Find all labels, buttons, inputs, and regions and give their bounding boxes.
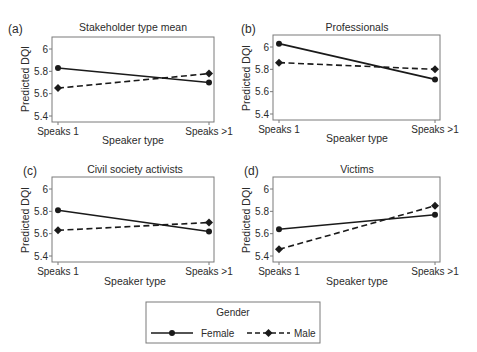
- panel-c: (c) Civil society activists Predicted DQ…: [19, 163, 233, 287]
- panel-d: (d) Victims Predicted DQI Speaker type 5…: [240, 163, 459, 287]
- panel-title: Stakeholder type mean: [79, 21, 187, 33]
- plot-area: 5.45.65.86Speaks 1Speaks >1: [255, 35, 459, 135]
- x-tick-label: Speaks 1: [37, 126, 79, 137]
- x-tick-label: Speaks >1: [411, 124, 459, 135]
- panel-label: (b): [241, 22, 256, 36]
- y-axis-title: Predicted DQI: [19, 46, 31, 112]
- y-tick-label: 5.4: [255, 109, 269, 120]
- plot-area: 5.45.65.86Speaks 1Speaks >1: [255, 177, 459, 277]
- panel-title: Civil society activists: [87, 163, 183, 175]
- panel-label: (a): [8, 22, 23, 36]
- circle-marker-icon: [55, 65, 61, 71]
- x-axis-title: Speaker type: [104, 275, 166, 287]
- circle-marker-icon: [276, 226, 282, 232]
- y-tick-label: 5.8: [34, 206, 48, 217]
- y-tick-label: 5.4: [255, 251, 269, 262]
- panel-title: Victims: [340, 163, 374, 175]
- diamond-marker-icon: [54, 226, 62, 234]
- figure: (a) Stakeholder type mean Predicted DQI …: [0, 0, 477, 352]
- y-tick-label: 6: [263, 184, 269, 195]
- legend: Gender Female Male: [146, 302, 320, 343]
- y-tick-label: 5.4: [34, 251, 48, 262]
- y-tick-label: 5.8: [34, 66, 48, 77]
- circle-marker-icon: [206, 228, 212, 234]
- diamond-marker-icon: [431, 65, 439, 73]
- series-line-female: [279, 44, 435, 80]
- y-tick-label: 5.6: [34, 228, 48, 239]
- plot-area: 5.45.65.86Speaks 1Speaks >1: [34, 177, 233, 277]
- legend-label-male: Male: [294, 328, 316, 339]
- y-tick-label: 5.8: [255, 64, 269, 75]
- circle-marker-icon: [432, 76, 438, 82]
- y-tick-label: 6: [263, 42, 269, 53]
- y-tick-label: 5.4: [34, 111, 48, 122]
- circle-marker-icon: [55, 207, 61, 213]
- panel-a: (a) Stakeholder type mean Predicted DQI …: [8, 21, 233, 146]
- x-axis-title: Speaker type: [102, 134, 164, 146]
- circle-marker-icon: [169, 330, 175, 336]
- plot-frame: [273, 177, 440, 262]
- diamond-marker-icon: [431, 202, 439, 210]
- x-tick-label: Speaks 1: [258, 124, 300, 135]
- panel-title: Professionals: [325, 21, 388, 33]
- x-tick-label: Speaks 1: [37, 266, 79, 277]
- plot-frame: [52, 177, 214, 262]
- diamond-marker-icon: [275, 59, 283, 67]
- panel-label: (d): [244, 164, 259, 178]
- series-line-female: [58, 210, 209, 231]
- y-tick-label: 5.6: [255, 86, 269, 97]
- y-axis-title: Predicted DQI: [240, 45, 252, 111]
- plot-area: 5.45.65.86Speaks 1Speaks >1: [34, 37, 233, 137]
- panel-label: (c): [23, 164, 37, 178]
- diamond-marker-icon: [205, 219, 213, 227]
- x-tick-label: Speaks 1: [258, 266, 300, 277]
- y-axis-title: Predicted DQI: [240, 187, 252, 253]
- plot-frame: [52, 37, 214, 122]
- legend-label-female: Female: [201, 328, 235, 339]
- x-axis-title: Speaker type: [326, 275, 388, 287]
- x-tick-label: Speaks >1: [185, 266, 233, 277]
- diamond-marker-icon: [205, 70, 213, 78]
- legend-title: Gender: [216, 307, 250, 318]
- y-tick-label: 5.6: [255, 228, 269, 239]
- circle-marker-icon: [276, 41, 282, 47]
- diamond-marker-icon: [54, 84, 62, 92]
- circle-marker-icon: [432, 212, 438, 218]
- y-tick-label: 6: [42, 184, 48, 195]
- x-tick-label: Speaks >1: [185, 126, 233, 137]
- x-axis-title: Speaker type: [326, 132, 388, 144]
- circle-marker-icon: [206, 80, 212, 86]
- series-line-male: [58, 223, 209, 231]
- series-line-male: [279, 63, 435, 70]
- y-tick-label: 5.6: [34, 88, 48, 99]
- y-axis-title: Predicted DQI: [19, 187, 31, 253]
- panel-b: (b) Professionals Predicted DQI Speaker …: [240, 21, 459, 144]
- diamond-marker-icon: [275, 245, 283, 253]
- y-tick-label: 5.8: [255, 206, 269, 217]
- y-tick-label: 6: [42, 44, 48, 55]
- x-tick-label: Speaks >1: [411, 266, 459, 277]
